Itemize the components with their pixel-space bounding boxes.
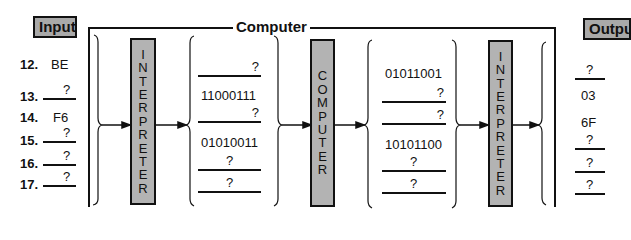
row-number: 17. (20, 177, 38, 192)
letter: E (496, 90, 505, 103)
question-mark: ? (437, 107, 444, 122)
letter: P (496, 117, 505, 130)
row-number: 12. (20, 57, 38, 72)
question-mark: ? (226, 175, 233, 190)
letter: E (139, 142, 148, 155)
output-blank[interactable]: ? (575, 134, 605, 150)
binary-value: 10101100 (385, 137, 442, 152)
computer-block: C O M P U T E R (310, 39, 335, 207)
question-mark: ? (586, 62, 593, 77)
interpreter-left-block: I N T E R P R E T E R (130, 38, 156, 205)
output-blank[interactable]: ? (575, 64, 605, 80)
row-number: 14. (20, 110, 38, 125)
row-number: 15. (20, 133, 38, 148)
letter: T (139, 75, 147, 88)
binary-blank[interactable]: ? (382, 178, 446, 194)
brace-binary-in-left (186, 36, 194, 206)
letter: P (139, 115, 148, 128)
output-blank[interactable]: ? (575, 179, 605, 195)
question-mark: ? (410, 154, 417, 169)
letter: O (317, 83, 327, 96)
letter: E (318, 150, 327, 163)
question-mark: ? (63, 125, 70, 140)
output-blank[interactable]: ? (575, 157, 605, 173)
letter: R (138, 128, 147, 141)
input-blank[interactable]: ? (43, 150, 76, 166)
input-blank[interactable]: ? (43, 127, 76, 143)
brace-binary-in-right (274, 36, 282, 206)
binary-blank[interactable]: ? (198, 107, 261, 123)
letter: E (496, 170, 505, 183)
question-mark: ? (63, 169, 70, 184)
letter: I (499, 50, 503, 63)
letter: R (318, 163, 327, 176)
input-value: BE (51, 57, 68, 72)
interpreter-right-block: I N T E R P R E T E R (488, 40, 513, 207)
input-value: F6 (53, 110, 68, 125)
input-blank[interactable]: ? (43, 84, 76, 100)
letter: T (139, 155, 147, 168)
letter: R (138, 182, 147, 195)
letter: C (318, 69, 327, 82)
binary-value: 01010011 (201, 135, 258, 150)
letter: E (139, 168, 148, 181)
letter: R (138, 101, 147, 114)
row-number: 13. (20, 89, 38, 104)
question-mark: ? (226, 153, 233, 168)
question-mark: ? (586, 155, 593, 170)
letter: T (497, 77, 505, 90)
letter: R (496, 130, 505, 143)
letter: P (318, 110, 327, 123)
letter: T (497, 157, 505, 170)
question-mark: ? (63, 82, 70, 97)
letter: M (317, 96, 328, 109)
binary-blank[interactable]: ? (198, 155, 261, 171)
binary-value: 11000111 (201, 88, 256, 103)
question-mark: ? (586, 177, 593, 192)
letter: E (139, 88, 148, 101)
question-mark: ? (252, 59, 259, 74)
letter: I (141, 48, 145, 61)
binary-blank[interactable]: ? (382, 109, 446, 125)
brace-binary-out-left (364, 40, 372, 208)
brace-output (538, 42, 546, 205)
question-mark: ? (410, 176, 417, 191)
brace-binary-out-right (452, 40, 460, 208)
letter: E (496, 144, 505, 157)
brace-input (93, 35, 102, 205)
letter: U (318, 123, 327, 136)
question-mark: ? (63, 148, 70, 163)
question-mark: ? (586, 132, 593, 147)
output-value: 6F (581, 115, 596, 130)
binary-blank[interactable]: ? (382, 87, 446, 103)
letter: R (496, 103, 505, 116)
letter: R (496, 184, 505, 197)
row-number: 16. (20, 156, 38, 171)
letter: N (138, 61, 147, 74)
letter: T (319, 136, 327, 149)
letter: N (496, 63, 505, 76)
binary-blank[interactable]: ? (382, 156, 446, 172)
output-value: 03 (581, 88, 595, 103)
question-mark: ? (437, 85, 444, 100)
input-blank[interactable]: ? (43, 171, 76, 187)
question-mark: ? (252, 105, 259, 120)
binary-value: 01011001 (385, 66, 442, 81)
binary-blank[interactable]: ? (198, 177, 261, 193)
binary-blank[interactable]: ? (198, 61, 261, 77)
